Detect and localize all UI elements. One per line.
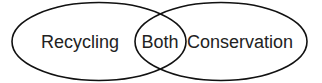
both-label: Both <box>141 33 178 51</box>
recycling-label: Recycling <box>41 33 119 51</box>
conservation-label: Conservation <box>187 33 293 51</box>
